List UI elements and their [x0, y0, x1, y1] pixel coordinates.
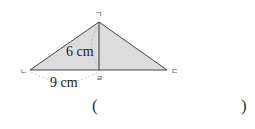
vertex-label-foot: ㄹ: [96, 74, 103, 83]
answer-open-paren: (: [92, 96, 98, 116]
answer-close-paren: ): [241, 96, 247, 116]
base-measure: 9 cm: [50, 75, 78, 90]
vertex-label-left: ㄴ: [20, 67, 27, 76]
vertex-label-right: ㄷ: [171, 67, 178, 76]
height-measure: 6 cm: [66, 44, 94, 59]
answer-blank[interactable]: [100, 96, 238, 118]
vertex-label-top: ㄱ: [95, 10, 102, 19]
